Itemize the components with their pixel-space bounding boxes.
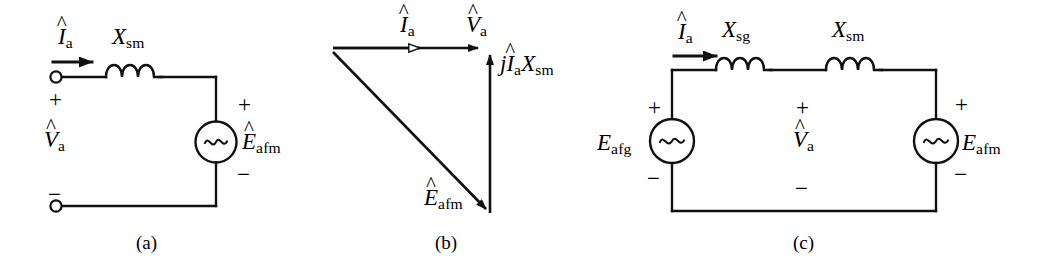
label-xsm-c: Xsm xyxy=(832,18,865,44)
inductor-xsm-a xyxy=(106,65,162,77)
label-xsg-c: Xsg xyxy=(722,18,750,44)
label-phasor-eafm-b: ^Eafm xyxy=(424,186,463,212)
label-eafm-a: ^Eafm xyxy=(242,130,281,156)
label-eafg-c: Eafg xyxy=(597,131,632,157)
label-phasor-jiaxsm-b: j^IaXsm xyxy=(500,52,554,78)
label-phasor-va-b: ^Va xyxy=(466,13,487,39)
label-va-a: ^Va xyxy=(44,128,65,154)
panel-a-circuit xyxy=(50,62,236,212)
caption-b: (b) xyxy=(435,233,457,252)
label-minus-bottom-a: − xyxy=(48,183,61,206)
label-source-plus-a: + xyxy=(238,93,251,116)
label-eafm-c: Eafm xyxy=(962,131,1001,157)
label-current-a: ^Ia xyxy=(58,25,73,51)
label-minus-mid-c: − xyxy=(795,177,808,200)
label-source-right-minus-c: − xyxy=(954,163,967,186)
inductor-xsg-c xyxy=(716,58,772,70)
label-current-c: ^Ia xyxy=(678,20,693,46)
figure-svg xyxy=(0,0,1053,275)
label-va-c: ^Va xyxy=(793,128,814,154)
inductor-xsm-c xyxy=(826,58,882,70)
caption-c: (c) xyxy=(793,233,814,252)
label-source-left-minus-c: − xyxy=(647,167,660,190)
phasor-eafm xyxy=(333,52,486,209)
label-source-minus-a: − xyxy=(237,163,250,186)
panel-b-phasor xyxy=(333,48,490,213)
figure-container: ^Ia Xsm + ^Va − + ^Eafm − (a) ^Ia ^Va j^… xyxy=(0,0,1053,275)
terminal-top-a xyxy=(50,71,61,82)
label-plus-top-a: + xyxy=(49,88,62,111)
label-phasor-ia-b: ^Ia xyxy=(400,13,415,39)
label-source-left-plus-c: + xyxy=(648,96,661,119)
caption-a: (a) xyxy=(136,233,157,252)
label-source-right-plus-c: + xyxy=(955,93,968,116)
label-xsm-a: Xsm xyxy=(112,25,145,51)
